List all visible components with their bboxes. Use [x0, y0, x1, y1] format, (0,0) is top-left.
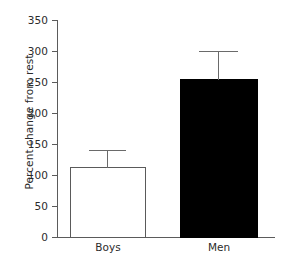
x-tick-label-men: Men	[180, 241, 258, 253]
bar-boys	[70, 167, 146, 238]
y-tick-label-350: 350	[8, 14, 48, 26]
error-bar-stem-boys	[107, 150, 108, 168]
error-bar-stem-men	[218, 51, 219, 80]
y-tick-100	[52, 175, 57, 176]
y-tick-0	[52, 237, 57, 238]
y-tick-300	[52, 51, 57, 52]
error-bar-cap-boys	[89, 150, 126, 151]
x-tick-label-boys: Boys	[70, 241, 146, 253]
y-tick-50	[52, 206, 57, 207]
y-tick-250	[52, 82, 57, 83]
y-axis-line	[57, 20, 58, 238]
y-tick-label-100: 100	[8, 169, 48, 181]
y-tick-label-150: 150	[8, 138, 48, 150]
y-tick-200	[52, 113, 57, 114]
y-tick-label-300: 300	[8, 45, 48, 57]
y-tick-label-200: 200	[8, 107, 48, 119]
bar-chart: Percent change from rest 350 300 250 200…	[0, 0, 288, 267]
bar-men	[180, 79, 258, 238]
y-tick-label-0: 0	[8, 231, 48, 243]
y-tick-label-50: 50	[8, 200, 48, 212]
plot-area: Percent change from rest 350 300 250 200…	[0, 0, 288, 267]
y-tick-350	[52, 20, 57, 21]
y-tick-150	[52, 144, 57, 145]
y-tick-label-250: 250	[8, 76, 48, 88]
error-bar-cap-men	[199, 51, 238, 52]
